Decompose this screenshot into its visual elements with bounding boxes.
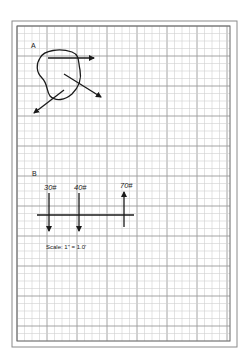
graph-paper-sheet: A B 30# 40# 70# Scale: 1" = 1.0'	[0, 0, 248, 360]
force-label-70: 70#	[120, 181, 133, 190]
part-b-label: B	[32, 170, 37, 177]
part-a: A	[31, 42, 101, 113]
part-a-label: A	[31, 42, 36, 49]
force-label-30: 30#	[44, 183, 57, 192]
scale-note: Scale: 1" = 1.0'	[46, 244, 86, 250]
force-label-40: 40#	[74, 183, 87, 192]
